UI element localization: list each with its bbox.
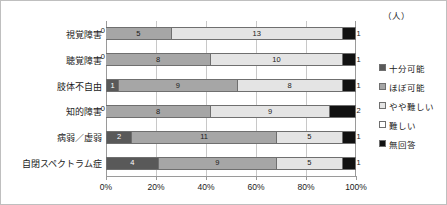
- segment-value-label: 8: [156, 108, 160, 116]
- segment-value-label: 9: [268, 108, 272, 116]
- segment-value-label: 8: [156, 56, 160, 64]
- category-label: 聴覚障害: [66, 53, 102, 66]
- segment-value-label: 9: [176, 82, 180, 90]
- legend-item[interactable]: ほぼ可能: [379, 77, 434, 96]
- bar-segment[interactable]: 1: [106, 79, 119, 92]
- stacked-bar: 08101: [106, 53, 356, 66]
- segment-value-label: 1: [111, 82, 115, 90]
- zero-value-label: 0: [101, 105, 105, 113]
- stacked-bar: 21151: [106, 131, 356, 144]
- bar-segment[interactable]: 5: [277, 131, 343, 144]
- segment-value-label: 2: [117, 133, 121, 141]
- legend-swatch-icon: [379, 140, 386, 147]
- bar-segment[interactable]: 1: [343, 53, 356, 66]
- legend-item[interactable]: 無回答: [379, 134, 434, 153]
- bar-segment[interactable]: 1: [343, 79, 356, 92]
- x-axis-line: [106, 176, 356, 177]
- legend-label: ほぼ可能: [389, 81, 425, 93]
- x-axis-tick: [106, 176, 107, 180]
- x-axis-tick: [156, 176, 157, 180]
- segment-value-label: 1: [357, 30, 361, 38]
- bar-row: 知的障害0892: [106, 99, 356, 125]
- x-axis-tick-label: 0%: [100, 182, 112, 192]
- segment-value-label: 10: [272, 56, 280, 64]
- legend-label: 十分可能: [389, 62, 425, 74]
- bar-segment[interactable]: 9: [119, 79, 237, 92]
- legend-item[interactable]: やや難しい: [379, 96, 434, 115]
- category-label: 肢体不自由: [57, 79, 102, 92]
- x-axis-tick: [256, 176, 257, 180]
- stacked-bar: 1981: [106, 79, 356, 92]
- legend-swatch-icon: [379, 83, 386, 90]
- plot-area: 視覚障害05131聴覚障害08101肢体不自由1981知的障害0892病弱／虚弱…: [106, 21, 356, 176]
- bar-segment[interactable]: 2: [106, 131, 132, 144]
- bar-segment[interactable]: 9: [159, 157, 277, 170]
- segment-value-label: 13: [253, 30, 261, 38]
- bar-segment[interactable]: 8: [238, 79, 343, 92]
- segment-value-label: 5: [136, 30, 140, 38]
- segment-value-label: 2: [357, 108, 361, 116]
- bar-segment[interactable]: 9: [211, 105, 330, 118]
- legend-swatch-icon: [379, 102, 386, 109]
- stacked-bar: 4951: [106, 157, 356, 170]
- bar-segment[interactable]: 5: [277, 157, 343, 170]
- x-axis-tick-label: 80%: [297, 182, 314, 192]
- legend-swatch-icon: [379, 121, 386, 128]
- bar-segment[interactable]: 1: [343, 157, 356, 170]
- bar-segment[interactable]: 2: [330, 105, 356, 118]
- bar-row: 聴覚障害08101: [106, 47, 356, 73]
- unit-caption: （人）: [383, 9, 410, 21]
- segment-value-label: 4: [130, 159, 134, 167]
- segment-value-label: 1: [357, 159, 361, 167]
- chart-container: （人） 視覚障害05131聴覚障害08101肢体不自由1981知的障害0892病…: [0, 0, 447, 205]
- x-axis-tick-label: 20%: [147, 182, 164, 192]
- x-axis-tick: [306, 176, 307, 180]
- stacked-bar: 05131: [106, 27, 356, 40]
- legend-label: 難しい: [389, 119, 416, 131]
- bar-segment[interactable]: 13: [172, 27, 343, 40]
- segment-value-label: 1: [356, 82, 360, 90]
- category-label: 病弱／虚弱: [57, 131, 102, 144]
- category-label: 自閉スペクトラム症: [22, 157, 102, 170]
- bar-segment[interactable]: 11: [132, 131, 277, 144]
- legend-label: やや難しい: [389, 100, 434, 112]
- bar-segment[interactable]: 8: [106, 53, 211, 66]
- legend-item[interactable]: 難しい: [379, 115, 434, 134]
- bar-segment[interactable]: 1: [343, 131, 356, 144]
- segment-value-label: 5: [307, 133, 311, 141]
- zero-value-label: 0: [101, 27, 105, 35]
- x-axis-tick: [356, 176, 357, 180]
- bar-row: 自閉スペクトラム症4951: [106, 150, 356, 176]
- bar-row: 肢体不自由1981: [106, 73, 356, 99]
- bar-segment[interactable]: 10: [211, 53, 343, 66]
- bar-row: 病弱／虚弱21151: [106, 124, 356, 150]
- bar-segment[interactable]: 1: [343, 27, 356, 40]
- segment-value-label: 8: [288, 82, 292, 90]
- x-axis-tick-label: 100%: [345, 182, 367, 192]
- bar-segment[interactable]: 4: [106, 157, 159, 170]
- legend-item[interactable]: 十分可能: [379, 58, 434, 77]
- category-label: 視覚障害: [66, 27, 102, 40]
- segment-value-label: 9: [215, 159, 219, 167]
- x-axis-tick: [206, 176, 207, 180]
- category-label: 知的障害: [66, 105, 102, 118]
- bar-segment[interactable]: 5: [106, 27, 172, 40]
- bar-segment[interactable]: 8: [106, 105, 211, 118]
- segment-value-label: 1: [357, 56, 361, 64]
- zero-value-label: 0: [101, 53, 105, 61]
- legend: 十分可能ほぼ可能やや難しい難しい無回答: [379, 58, 434, 153]
- segment-value-label: 11: [200, 133, 208, 141]
- x-axis-tick-label: 60%: [247, 182, 264, 192]
- bar-row: 視覚障害05131: [106, 21, 356, 47]
- segment-value-label: 1: [357, 133, 361, 141]
- x-axis-tick-label: 40%: [197, 182, 214, 192]
- stacked-bar: 0892: [106, 105, 356, 118]
- segment-value-label: 5: [307, 159, 311, 167]
- legend-label: 無回答: [389, 138, 416, 150]
- legend-swatch-icon: [379, 64, 386, 71]
